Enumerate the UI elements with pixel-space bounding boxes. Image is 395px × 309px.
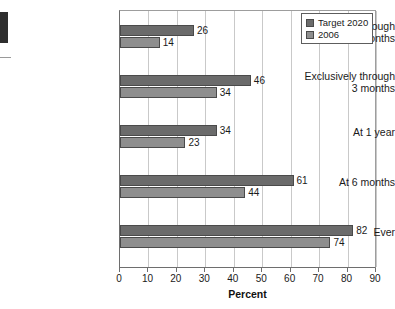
legend-item-2006: 2006 (306, 29, 368, 40)
category-label: At 6 months (283, 176, 395, 188)
x-tick-label: 50 (249, 273, 273, 285)
bar-target-2020 (120, 125, 217, 136)
legend-swatch-icon (306, 19, 314, 27)
x-tick-label: 10 (135, 273, 159, 285)
x-tick (347, 268, 348, 272)
x-tick-label: 60 (278, 273, 302, 285)
category-label: At 1 year (283, 126, 395, 138)
bar-2006 (120, 37, 160, 48)
x-tick (119, 268, 120, 272)
bar-value-label: 23 (188, 137, 199, 148)
legend-label: 2006 (318, 30, 339, 40)
x-tick (233, 268, 234, 272)
bar-value-label: 44 (248, 187, 259, 198)
category-label: Ever (283, 226, 395, 238)
x-tick-label: 30 (192, 273, 216, 285)
bar-target-2020 (120, 75, 251, 86)
x-tick (204, 268, 205, 272)
bar-value-label: 34 (220, 125, 231, 136)
x-tick-label: 20 (164, 273, 188, 285)
category-label: Exclusively through 3 months (283, 70, 395, 94)
x-tick (290, 268, 291, 272)
x-tick (261, 268, 262, 272)
legend-item-target-2020: Target 2020 (306, 17, 368, 28)
x-tick-label: 40 (221, 273, 245, 285)
chart-legend: Target 2020 2006 (301, 13, 373, 44)
bar-2006 (120, 237, 330, 248)
scan-edge-line-artifact (0, 57, 11, 58)
legend-swatch-icon (306, 31, 314, 39)
x-tick (318, 268, 319, 272)
bar-value-label: 74 (333, 237, 344, 248)
bar-chart: 26144634342361448274 Exclusively through… (0, 0, 395, 309)
x-tick-label: 80 (335, 273, 359, 285)
bar-2006 (120, 137, 185, 148)
bar-value-label: 14 (163, 37, 174, 48)
x-tick-label: 90 (363, 273, 387, 285)
x-tick (147, 268, 148, 272)
x-tick-label: 0 (107, 273, 131, 285)
bar-2006 (120, 87, 217, 98)
bar-target-2020 (120, 175, 294, 186)
bar-value-label: 34 (220, 87, 231, 98)
x-tick-label: 70 (306, 273, 330, 285)
x-tick (176, 268, 177, 272)
legend-label: Target 2020 (318, 18, 368, 28)
bar-target-2020 (120, 25, 194, 36)
scan-edge-artifact (0, 12, 8, 43)
x-axis-title: Percent (119, 288, 376, 300)
x-tick (375, 268, 376, 272)
bar-value-label: 46 (254, 75, 265, 86)
bar-2006 (120, 187, 245, 198)
bar-value-label: 26 (197, 25, 208, 36)
